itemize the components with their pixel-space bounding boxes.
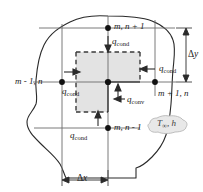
q-conv-symbol: q xyxy=(127,94,132,104)
q-cond-right-subscript: cond xyxy=(164,67,177,74)
q-cond-right-label: qcond xyxy=(159,64,176,73)
q-cond-right-symbol: q xyxy=(159,63,164,73)
q-conv-leader xyxy=(114,96,125,102)
delta-y-variable: y xyxy=(194,49,198,59)
node-dot-top xyxy=(105,25,111,31)
q-cond-top-symbol: q xyxy=(112,36,117,46)
node-label-top: m, n + 1 xyxy=(114,22,145,31)
delta-x-variable: x xyxy=(83,173,87,183)
node-dot-right xyxy=(152,79,158,85)
delta-x-label: Δx xyxy=(77,174,87,184)
node-label-right: m + 1, n xyxy=(158,89,189,98)
q-cond-left-symbol: q xyxy=(62,86,67,96)
q-cond-bottom-arrow xyxy=(95,111,101,126)
nodal-control-volume-figure: m, n + 1 m - 1, n m + 1, n m, n - 1 qcon… xyxy=(0,0,203,192)
q-cond-bottom-label: qcond xyxy=(70,131,87,140)
node-dot-center xyxy=(105,79,111,85)
ambient-condition-label: T∞, h xyxy=(157,119,176,128)
node-dot-left xyxy=(59,79,65,85)
delta-y-label: Δy xyxy=(188,50,198,60)
q-conv-label: qconv xyxy=(127,95,144,104)
q-cond-bottom-subscript: cond xyxy=(75,134,88,141)
q-cond-left-subscript: cond xyxy=(67,90,80,97)
q-cond-right-arrow xyxy=(140,66,155,72)
q-cond-top-subscript: cond xyxy=(117,40,130,47)
q-conv-subscript: conv xyxy=(132,98,145,105)
node-dot-bottom xyxy=(105,125,111,131)
q-cond-top-label: qcond xyxy=(112,37,129,46)
q-cond-left-label: qcond xyxy=(62,87,79,96)
ambient-infinity-subscript: ∞ xyxy=(162,122,167,130)
ambient-coefficient-symbol: h xyxy=(172,118,177,128)
q-cond-bottom-symbol: q xyxy=(70,130,75,140)
q-cond-top-arrow xyxy=(105,36,111,52)
node-label-left: m - 1, n xyxy=(15,77,43,86)
node-label-bottom: m, n - 1 xyxy=(114,123,142,132)
